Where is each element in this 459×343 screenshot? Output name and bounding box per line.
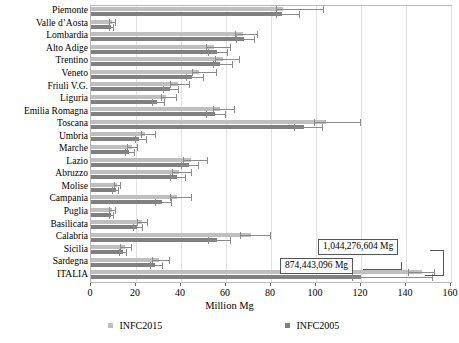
error-cap-low (192, 69, 193, 76)
bar-infc2015[interactable] (91, 7, 283, 11)
error-bar-infc2005 (208, 52, 228, 53)
error-bar-infc2005 (133, 227, 143, 228)
error-bar-infc2005 (170, 177, 186, 178)
error-cap-low (152, 99, 153, 106)
bar-infc2015[interactable] (91, 270, 422, 274)
bar-infc2005[interactable] (91, 37, 244, 41)
error-cap-high (113, 212, 114, 219)
x-axis-tick (405, 283, 406, 286)
error-cap-high (147, 219, 148, 226)
error-cap-high (230, 44, 231, 51)
error-cap-high (131, 244, 132, 251)
bar-infc2005[interactable] (91, 250, 123, 254)
error-cap-high (232, 61, 233, 68)
bar-infc2015[interactable] (91, 70, 199, 74)
error-cap-high (185, 174, 186, 181)
bar-infc2015[interactable] (91, 120, 326, 124)
bar-infc2015[interactable] (91, 57, 223, 61)
category-label: Molise (2, 181, 88, 192)
bar-infc2005[interactable] (91, 200, 162, 204)
bar-infc2005[interactable] (91, 87, 170, 91)
error-bar-infc2015 (109, 22, 116, 23)
bar-infc2015[interactable] (91, 195, 177, 199)
category-label: Calabria (2, 231, 88, 242)
bar-infc2005[interactable] (91, 175, 177, 179)
error-cap-low (240, 232, 241, 239)
bar-infc2005[interactable] (91, 75, 192, 79)
error-bar-infc2005 (155, 202, 172, 203)
bar-group (91, 207, 451, 220)
legend-item-infc2005[interactable]: INFC2005 (285, 320, 339, 331)
x-axis-tick (90, 283, 91, 286)
error-cap-high (164, 99, 165, 106)
category-label: Campania (2, 193, 88, 204)
bar-infc2005[interactable] (91, 137, 139, 141)
bar-group (91, 81, 451, 94)
leader-line-lower-v (401, 262, 402, 270)
bar-infc2015[interactable] (91, 158, 191, 162)
category-label: Abruzzo (2, 168, 88, 179)
bar-infc2005[interactable] (91, 50, 217, 54)
bar-group (91, 131, 451, 144)
category-label: Valle d’Aosta (2, 18, 88, 29)
bar-group (91, 6, 451, 19)
error-cap-low (155, 199, 156, 206)
legend-item-infc2015[interactable]: INFC2015 (108, 320, 162, 331)
error-bar-infc2015 (235, 34, 258, 35)
x-axis-tick-label: 20 (130, 287, 140, 298)
x-axis-tick-label: 120 (353, 287, 368, 298)
error-cap-low (150, 262, 151, 269)
bar-infc2015[interactable] (91, 170, 179, 174)
error-bar-infc2015 (192, 72, 217, 73)
error-cap-low (186, 74, 187, 81)
error-cap-low (208, 237, 209, 244)
error-bar-infc2005 (150, 265, 164, 266)
error-cap-high (191, 169, 192, 176)
bar-infc2015[interactable] (91, 107, 220, 111)
annotation-lower-total: 874,443,096 Mg (280, 258, 353, 274)
error-bar-infc2005 (236, 39, 255, 40)
bar-infc2005[interactable] (91, 225, 137, 229)
bar-infc2005[interactable] (91, 62, 220, 66)
category-label: Friuli V.G. (2, 81, 88, 92)
bar-infc2005[interactable] (91, 163, 189, 167)
error-bar-infc2015 (161, 97, 177, 98)
bar-infc2015[interactable] (91, 32, 243, 36)
legend: INFC2015 INFC2005 (0, 320, 459, 336)
error-bar-infc2005 (112, 190, 119, 191)
bar-infc2005[interactable] (91, 12, 282, 16)
bar-infc2015[interactable] (91, 95, 166, 99)
error-bar-infc2015 (127, 147, 138, 148)
category-label: Lombardia (2, 30, 88, 41)
bar-group (91, 194, 451, 207)
category-label: Toscana (2, 118, 88, 129)
x-axis-tick-label: 40 (175, 287, 185, 298)
bar-infc2005[interactable] (91, 263, 155, 267)
bar-infc2015[interactable] (91, 258, 159, 262)
error-cap-low (109, 212, 110, 219)
error-bar-infc2015 (213, 109, 236, 110)
error-cap-high (134, 149, 135, 156)
error-bar-infc2015 (408, 272, 435, 273)
x-axis-tick-label: 160 (443, 287, 458, 298)
bar-infc2005[interactable] (91, 238, 217, 242)
bar-infc2005[interactable] (91, 150, 129, 154)
error-bar-infc2005 (213, 64, 233, 65)
x-axis-tick (270, 283, 271, 286)
bar-infc2015[interactable] (91, 82, 178, 86)
error-cap-low (181, 162, 182, 169)
error-cap-low (161, 94, 162, 101)
error-bar-infc2005 (206, 114, 226, 115)
error-cap-high (189, 81, 190, 88)
error-bar-infc2005 (294, 127, 323, 128)
bar-infc2005[interactable] (91, 100, 157, 104)
bar-infc2015[interactable] (91, 220, 142, 224)
bar-infc2005[interactable] (91, 125, 304, 129)
error-cap-low (137, 219, 138, 226)
bar-infc2015[interactable] (91, 45, 214, 49)
bar-infc2005[interactable] (91, 275, 361, 279)
bar-infc2015[interactable] (91, 132, 145, 136)
bar-infc2015[interactable] (91, 233, 251, 237)
category-label: Piemonte (2, 5, 88, 16)
bar-infc2005[interactable] (91, 112, 215, 116)
